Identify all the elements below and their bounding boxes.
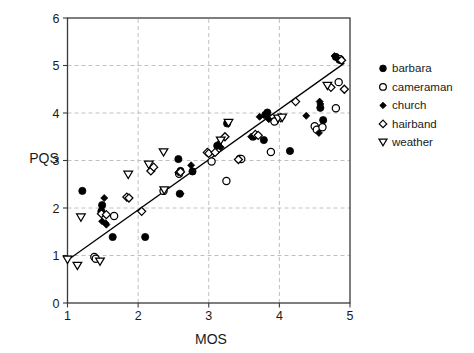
y-tick-label: 2 [53,202,60,216]
data-point-cameraman [335,79,342,86]
legend-label: church [392,99,427,111]
data-point-barbara [286,147,293,154]
legend-label: barbara [392,62,432,74]
legend-label: hairband [392,118,437,130]
data-point-cameraman [223,177,230,184]
y-tick-label: 6 [53,12,60,26]
x-tick-label: 3 [205,309,212,323]
y-axis-title: PQS [29,150,59,166]
y-tick-label: 0 [53,297,60,311]
y-tick-label: 4 [53,107,60,121]
data-point-barbara [189,168,196,175]
data-point-barbara [142,233,149,240]
data-point-cameraman [208,158,215,165]
y-tick-label: 1 [53,249,60,263]
legend-label: cameraman [392,81,453,93]
chart-canvas: 012345612345 barbaracameramanchurchhairb… [0,0,474,353]
data-point-barbara [109,233,116,240]
x-tick-label: 5 [347,309,354,323]
scatter-plot-figure: 012345612345 barbaracameramanchurchhairb… [0,0,474,353]
legend-marker-open-circle-icon [380,84,387,91]
y-tick-label: 5 [53,59,60,73]
data-point-barbara [79,187,86,194]
legend-label: weather [391,136,433,148]
data-point-cameraman [267,148,274,155]
data-point-cameraman [319,124,326,131]
x-tick-label: 1 [64,309,71,323]
data-point-barbara [175,155,182,162]
x-tick-label: 2 [135,309,142,323]
chart-background [0,0,474,353]
x-axis-title: MOS [195,331,227,347]
legend-marker-filled-circle-icon [380,65,387,72]
data-point-cameraman [111,212,118,219]
data-point-cameraman [332,105,339,112]
data-point-barbara [320,117,327,124]
data-point-barbara [260,136,267,143]
x-tick-label: 4 [276,309,283,323]
